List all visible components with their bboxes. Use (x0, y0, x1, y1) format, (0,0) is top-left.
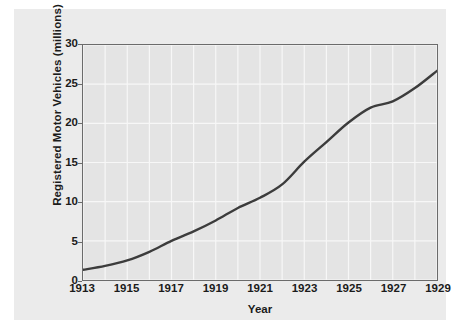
y-tick-label: 20 (42, 117, 78, 129)
x-tick-label: 1929 (416, 283, 460, 295)
y-tick-label: 5 (42, 236, 78, 248)
x-axis-title: Year (82, 303, 438, 315)
y-axis-tick-group: 051015202530 (40, 44, 78, 281)
x-tick-label: 1919 (194, 283, 238, 295)
y-tick-label: 25 (42, 78, 78, 90)
chart-page: Registered Motor Vehicles (millions) 051… (0, 0, 460, 330)
x-tick-label: 1917 (149, 283, 193, 295)
x-tick-label: 1923 (283, 283, 327, 295)
y-tick-label: 30 (42, 38, 78, 50)
data-series-line (83, 45, 437, 280)
line-path (83, 71, 437, 270)
figure-card: Registered Motor Vehicles (millions) 051… (14, 9, 446, 320)
plot-area (82, 44, 438, 281)
x-tick-label: 1913 (60, 283, 104, 295)
x-tick-label: 1927 (372, 283, 416, 295)
x-axis-tick-group: 191319151917191919211923192519271929 (82, 283, 438, 301)
x-tick-label: 1921 (238, 283, 282, 295)
x-tick-label: 1915 (105, 283, 149, 295)
y-tick-label: 10 (42, 196, 78, 208)
x-tick-label: 1925 (327, 283, 371, 295)
y-tick-label: 15 (42, 157, 78, 169)
